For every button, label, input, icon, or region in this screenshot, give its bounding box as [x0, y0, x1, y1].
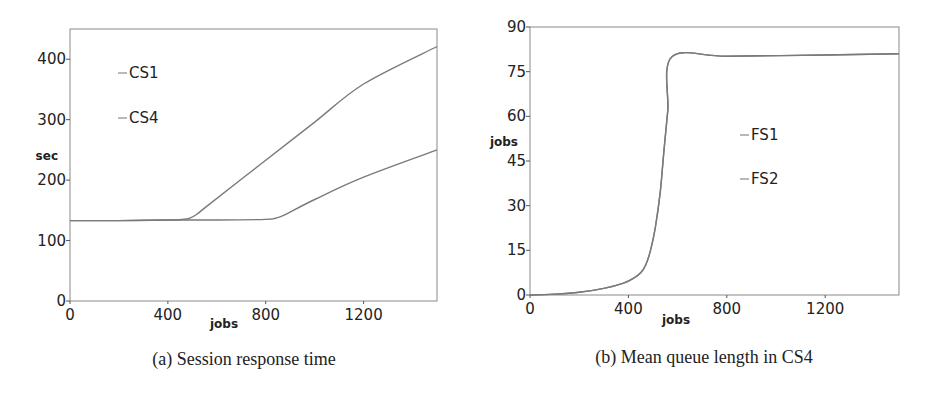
- x-tick-label: 0: [65, 306, 75, 324]
- y-tick-label: 300: [37, 111, 66, 129]
- x-tick-label: 1200: [345, 306, 383, 324]
- y-axis-ticks: 0100200300400: [37, 50, 70, 310]
- y-axis-label: jobs: [489, 135, 518, 149]
- y-tick-label: 60: [507, 107, 526, 125]
- x-axis-label: jobs: [661, 313, 690, 327]
- x-tick-label: 400: [154, 306, 183, 324]
- y-tick-label: 15: [507, 241, 526, 259]
- caption: (a) Session response time: [152, 349, 335, 370]
- y-tick-label: 400: [37, 50, 66, 68]
- series-line-fs2: [530, 53, 899, 295]
- x-tick-label: 800: [251, 306, 280, 324]
- y-axis-ticks: 0153045607590: [507, 18, 530, 304]
- legend-label-fs2: FS2: [751, 170, 778, 188]
- y-tick-label: 100: [37, 232, 66, 250]
- x-tick-label: 800: [712, 300, 741, 318]
- y-tick-label: 30: [507, 197, 526, 215]
- plot-frame: [70, 29, 437, 301]
- y-tick-label: 75: [507, 63, 526, 81]
- series-lines: [530, 53, 899, 295]
- series-line-fs1: [530, 53, 899, 295]
- chart-session-response-time: 0100200300400 04008001200 sec jobs CS1CS…: [36, 29, 437, 370]
- y-axis-label: sec: [36, 149, 58, 163]
- series-line-cs1: [70, 150, 437, 221]
- chart-mean-queue-length: 0153045607590 04008001200 jobs jobs FS1F…: [489, 18, 899, 368]
- caption: (b) Mean queue length in CS4: [595, 347, 812, 368]
- figure: 0100200300400 04008001200 sec jobs CS1CS…: [0, 0, 933, 393]
- x-tick-label: 1200: [806, 300, 844, 318]
- y-tick-label: 45: [507, 152, 526, 170]
- legend-label-cs4: CS4: [129, 109, 159, 127]
- legend: FS1FS2: [740, 126, 778, 188]
- legend-label-fs1: FS1: [751, 126, 778, 144]
- legend: CS1CS4: [118, 64, 159, 127]
- y-tick-label: 200: [37, 171, 66, 189]
- x-axis-label: jobs: [209, 317, 238, 331]
- legend-label-cs1: CS1: [129, 64, 159, 82]
- x-tick-label: 0: [525, 300, 535, 318]
- plot-frame: [530, 27, 899, 295]
- y-tick-label: 90: [507, 18, 526, 36]
- x-tick-label: 400: [614, 300, 643, 318]
